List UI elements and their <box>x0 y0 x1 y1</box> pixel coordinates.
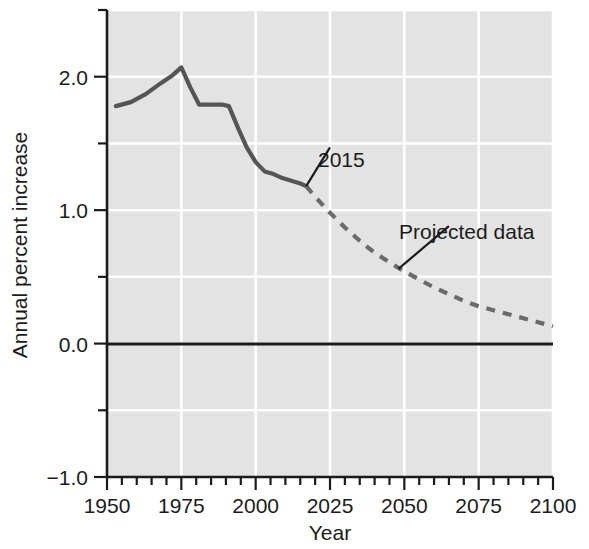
y-tick-label: 1.0 <box>59 199 88 222</box>
y-axis-title: Annual percent increase <box>8 132 31 358</box>
x-axis-title: Year <box>309 521 351 544</box>
x-axis-tick-labels: 1950197520002025205020752100 <box>84 494 577 517</box>
x-tick-label: 1975 <box>158 494 205 517</box>
x-tick-label: 2025 <box>307 494 354 517</box>
y-tick-label: 2.0 <box>59 66 88 89</box>
x-tick-label: 1950 <box>84 494 131 517</box>
chart-figure: 2015 Projected data 19501975200020252050… <box>0 0 589 549</box>
y-tick-label: 0.0 <box>59 333 88 356</box>
y-axis-ticks <box>94 10 107 477</box>
annotation-2015: 2015 <box>318 148 365 171</box>
y-tick-label: −1.0 <box>47 466 88 489</box>
annotation-projected-data: Projected data <box>399 220 535 243</box>
x-tick-label: 2075 <box>455 494 502 517</box>
x-tick-label: 2000 <box>232 494 279 517</box>
x-tick-label: 2100 <box>530 494 577 517</box>
x-tick-label: 2050 <box>381 494 428 517</box>
y-axis-tick-labels: −1.00.01.02.0 <box>47 66 88 489</box>
line-chart: 2015 Projected data 19501975200020252050… <box>0 0 589 549</box>
x-axis-ticks <box>107 477 553 490</box>
